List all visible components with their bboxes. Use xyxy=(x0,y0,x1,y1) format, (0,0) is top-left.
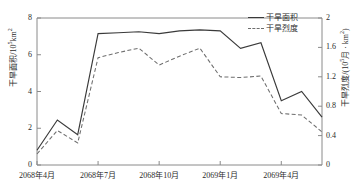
y-axis-left-tick-4: 4 xyxy=(18,87,32,96)
y-axis-right-tick-2: 2 xyxy=(326,13,342,22)
legend-item-drought-intensity: 干旱烈度 xyxy=(248,23,298,34)
x-axis-ticks xyxy=(37,161,281,165)
x-axis-tick-0: 2068年4月 xyxy=(5,169,69,180)
legend-label-drought-intensity: 干旱烈度 xyxy=(266,23,298,34)
y-axis-left-tick-2: 2 xyxy=(18,123,32,132)
x-axis-tick-3: 2069年1月 xyxy=(188,169,252,180)
y-axis-left-title: 干旱面积/105km2 xyxy=(7,10,18,106)
y-axis-left-tick-8: 8 xyxy=(18,13,32,22)
legend-line-solid-icon xyxy=(248,14,264,22)
y-axis-right-ticks xyxy=(318,18,322,165)
plot-area xyxy=(0,0,352,193)
y-axis-right-tick-0.4: 0.4 xyxy=(326,131,342,140)
y-axis-right-tick-1.2: 1.2 xyxy=(326,72,342,81)
y-axis-left-tick-0: 0 xyxy=(18,160,32,169)
legend-line-dashed-icon xyxy=(248,25,264,33)
x-axis-tick-4: 2069年4月 xyxy=(249,169,313,180)
x-axis-tick-2: 2068年10月 xyxy=(127,169,191,180)
legend-label-drought-area: 干旱面积 xyxy=(266,12,298,23)
y-axis-right-tick-1.6: 1.6 xyxy=(326,42,342,51)
y-axis-right-tick-0: 0 xyxy=(326,160,342,169)
chart-legend: 干旱面积 干旱烈度 xyxy=(248,12,298,34)
y-axis-right-tick-0.8: 0.8 xyxy=(326,101,342,110)
drought-dual-axis-line-chart: 干旱面积/105km2 干旱烈度/(105月 · km2) 02468 00.4… xyxy=(0,0,352,193)
legend-item-drought-area: 干旱面积 xyxy=(248,12,298,23)
y-axis-left-tick-6: 6 xyxy=(18,50,32,59)
x-axis-tick-1: 2068年7月 xyxy=(66,169,130,180)
y-axis-left-ticks xyxy=(37,18,41,165)
series-line-drought-intensity xyxy=(37,48,322,154)
